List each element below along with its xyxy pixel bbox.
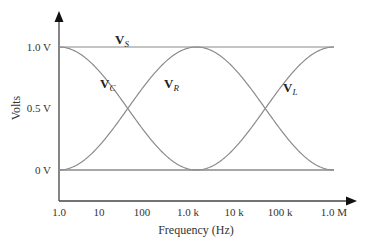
x-tick-label: 1.0 M bbox=[321, 206, 348, 218]
x-tick-labels: 1.0 10 100 1.0 k 10 k 100 k 1.0 M bbox=[52, 206, 347, 218]
x-tick-label: 1.0 k bbox=[177, 206, 200, 218]
label-vl: VL bbox=[283, 80, 297, 97]
x-tick-label: 100 k bbox=[268, 206, 293, 218]
label-vs: VS bbox=[115, 32, 129, 49]
label-vc: VC bbox=[100, 76, 116, 93]
x-axis-title: Frequency (Hz) bbox=[158, 223, 234, 237]
curve-vc bbox=[59, 47, 334, 170]
y-tick-label-0-5v: 0.5 V bbox=[27, 102, 51, 114]
x-axis-arrow-icon bbox=[346, 197, 357, 206]
y-axis-title: Volts bbox=[9, 95, 23, 120]
curve-vl bbox=[59, 47, 334, 170]
curve-vr bbox=[59, 47, 334, 170]
y-tick-label-0v: 0 V bbox=[35, 164, 51, 176]
x-tick-label: 100 bbox=[134, 206, 151, 218]
y-tick-label-1v: 1.0 V bbox=[27, 41, 51, 53]
y-axis-arrow-icon bbox=[55, 11, 64, 22]
label-vr: VR bbox=[164, 76, 179, 93]
x-tick-label: 1.0 bbox=[52, 206, 66, 218]
rlc-frequency-response-chart: 1.0 V 0.5 V 0 V Volts 1.0 10 100 1.0 k 1… bbox=[0, 0, 366, 246]
x-tick-label: 10 k bbox=[224, 206, 244, 218]
x-tick-label: 10 bbox=[94, 206, 106, 218]
